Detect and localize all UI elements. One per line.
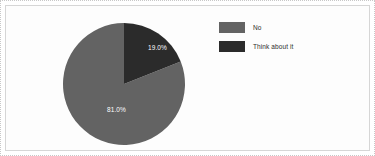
chart-legend: No Think about it <box>219 18 329 56</box>
chart-panel: 19.0% 81.0% No Think about it <box>5 5 370 151</box>
legend-label-think-about-it: Think about it <box>253 43 293 50</box>
slice-label-think-about-it: 19.0% <box>148 44 167 51</box>
legend-label-no: No <box>253 24 262 31</box>
pie-chart <box>62 22 186 146</box>
legend-swatch-think-about-it <box>219 41 245 52</box>
slice-label-no: 81.0% <box>107 106 126 113</box>
plot-area: 19.0% 81.0% No Think about it <box>6 6 369 150</box>
legend-swatch-no <box>219 22 245 33</box>
legend-item-think-about-it[interactable]: Think about it <box>219 37 329 56</box>
chart-figure: 19.0% 81.0% No Think about it <box>0 0 375 156</box>
legend-item-no[interactable]: No <box>219 18 329 37</box>
